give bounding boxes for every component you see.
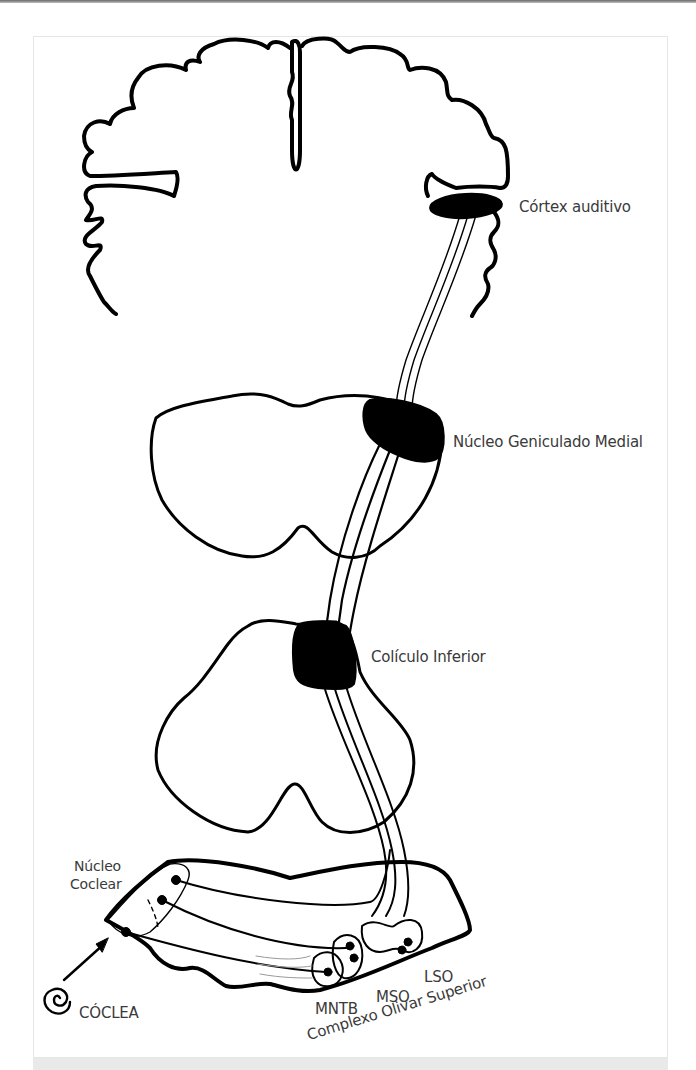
auditory-cortex-nucleus [429, 192, 502, 220]
label-medial-geniculate: Núcleo Geniculado Medial [453, 433, 643, 451]
mso-cell-1 [346, 942, 354, 950]
label-cochlear-nucleus-1: Núcleo [74, 858, 121, 875]
fibers-cortex-mgn [396, 215, 476, 410]
lso-cell-2 [398, 946, 406, 954]
lso-outline [362, 920, 422, 952]
cochlea-icon [45, 989, 71, 1014]
lso-cell-1 [404, 938, 412, 946]
label-cochlear-nucleus-2: Coclear [70, 876, 121, 893]
fibers-mgn-ic [324, 444, 398, 650]
label-auditory-cortex: Córtex auditivo [519, 198, 631, 216]
ic-nucleus [293, 621, 356, 689]
arrow-cochlea-to-nucleus [64, 944, 104, 980]
auditory-pathway-diagram [0, 0, 696, 1070]
mso-cell-2 [350, 954, 358, 962]
label-inferior-colliculus: Colículo Inferior [371, 648, 486, 666]
faint-fibers [256, 956, 312, 978]
cerebral-cortex [84, 39, 508, 316]
mntb-cell [324, 968, 332, 976]
label-cochlea: CÓCLEA [79, 1004, 139, 1022]
brainstem-outline [106, 860, 470, 991]
